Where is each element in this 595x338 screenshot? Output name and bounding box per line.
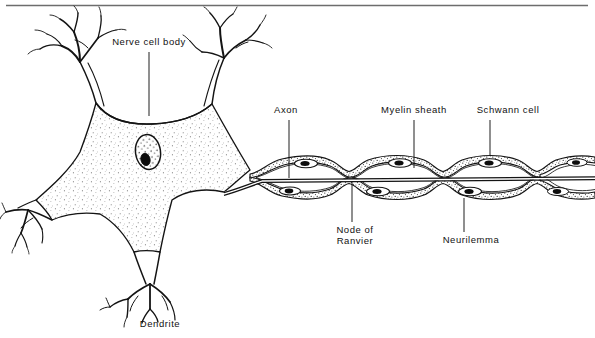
label-node-of-ranvier: Node of Ranvier bbox=[336, 224, 373, 246]
neuron-diagram-svg bbox=[0, 0, 595, 338]
dendrite-bottom bbox=[100, 252, 175, 327]
label-schwann-cell: Schwann cell bbox=[477, 104, 540, 115]
schwann-cell-nucleus bbox=[479, 159, 502, 167]
schwann-cell-nucleus bbox=[548, 188, 569, 196]
schwann-cell-nucleus bbox=[280, 187, 301, 195]
label-node-of-ranvier-line2: Ranvier bbox=[337, 235, 374, 246]
cell-body bbox=[36, 103, 250, 252]
label-node-of-ranvier-line1: Node of bbox=[336, 224, 373, 235]
dendrite-upper-right bbox=[183, 7, 272, 106]
myelinated-axon bbox=[224, 156, 595, 200]
schwann-cell-nucleus bbox=[389, 159, 412, 167]
dendrite-upper-left bbox=[28, 6, 126, 106]
schwann-cell-nucleus bbox=[295, 159, 318, 167]
label-axon: Axon bbox=[274, 104, 298, 115]
schwann-cell-nucleus bbox=[567, 159, 587, 167]
label-dendrite: Dendrite bbox=[140, 318, 180, 329]
schwann-cell-nucleus bbox=[367, 187, 390, 195]
label-neurilemma: Neurilemma bbox=[443, 234, 500, 245]
schwann-cell-nucleus bbox=[459, 187, 482, 195]
label-nerve-cell-body: Nerve cell body bbox=[112, 36, 186, 47]
diagram-canvas: Nerve cell body Axon Myelin sheath Schwa… bbox=[0, 0, 595, 338]
label-myelin-sheath: Myelin sheath bbox=[381, 104, 447, 115]
